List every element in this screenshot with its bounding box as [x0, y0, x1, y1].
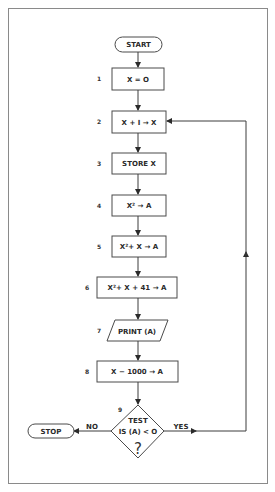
step-7-text: PRINT (A): [118, 328, 156, 336]
start-terminal: START: [115, 37, 162, 52]
step-6-text: X²+ X + 41 → A: [108, 284, 167, 292]
step-2-number: 2: [97, 118, 101, 125]
step-7-io: 7 PRINT (A): [97, 320, 168, 341]
step-4-box: 4 X² → A: [97, 195, 166, 216]
step-1-number: 1: [97, 75, 101, 82]
step-1-box: 1 X = O: [97, 68, 164, 90]
step-6-box: 6 X²+ X + 41 → A: [85, 277, 177, 298]
start-label: START: [126, 41, 151, 49]
decision-9-number: 9: [118, 406, 122, 413]
step-4-number: 4: [97, 202, 101, 209]
step-3-text: STORE X: [122, 160, 156, 168]
stop-label: STOP: [41, 428, 62, 436]
stop-terminal: STOP: [28, 424, 74, 438]
step-5-number: 5: [97, 243, 101, 250]
no-label: NO: [86, 423, 98, 431]
yes-label: YES: [173, 423, 189, 431]
step-4-text: X² → A: [127, 202, 152, 210]
flowchart: START 1 X = O 2 X + I → X 3 STORE X 4 X²…: [0, 0, 275, 492]
step-2-box: 2 X + I → X: [97, 111, 166, 133]
step-5-text: X²+ X → A: [120, 243, 159, 251]
step-7-number: 7: [97, 327, 101, 334]
decision-line-2: IS (A) < O: [119, 428, 158, 436]
decision-question-mark: ?: [134, 440, 142, 458]
step-8-text: X − 1000 → A: [111, 368, 163, 376]
step-3-number: 3: [97, 160, 101, 167]
step-2-text: X + I → X: [122, 119, 157, 127]
decision-9-diamond: 9 TEST IS (A) < O ?: [111, 405, 164, 458]
step-8-number: 8: [85, 368, 89, 375]
step-8-box: 8 X − 1000 → A: [85, 361, 178, 382]
decision-line-1: TEST: [128, 417, 148, 425]
step-1-text: X = O: [127, 76, 149, 84]
step-5-box: 5 X²+ X → A: [97, 236, 166, 257]
step-3-box: 3 STORE X: [97, 153, 166, 174]
step-6-number: 6: [85, 284, 89, 291]
